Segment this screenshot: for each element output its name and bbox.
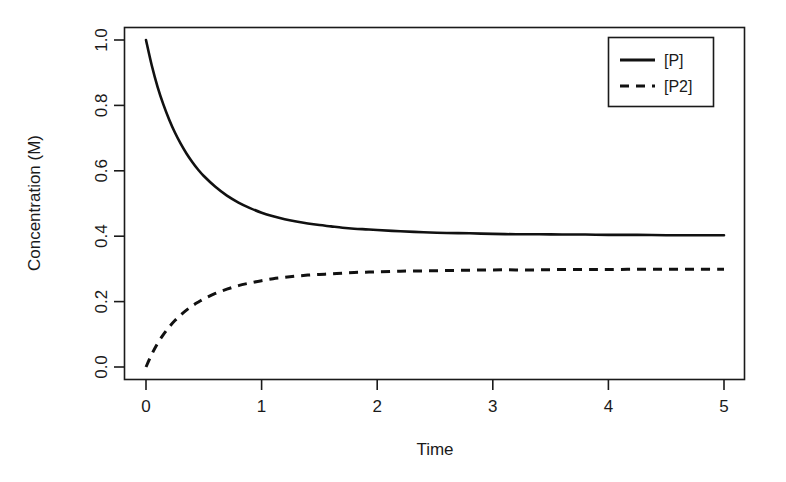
x-axis-label: Time — [416, 440, 453, 459]
plot-canvas: 1.0 0.8 0.6 0.4 0.2 0.0 0 1 2 3 4 5 Time — [0, 0, 786, 482]
y-tick-label: 0.6 — [92, 159, 111, 183]
x-tick-label: 4 — [604, 397, 613, 416]
y-axis-label: Concentration (M) — [25, 135, 44, 271]
x-tick-label: 0 — [141, 397, 150, 416]
y-tick-label: 1.0 — [92, 28, 111, 52]
x-tick-label: 5 — [719, 397, 728, 416]
x-tick-label: 3 — [488, 397, 497, 416]
legend-border — [609, 38, 714, 107]
x-tick-label: 2 — [372, 397, 381, 416]
y-tick-label: 0.2 — [92, 290, 111, 314]
legend-label-p2: [P2] — [664, 78, 692, 95]
x-tick-label: 1 — [257, 397, 266, 416]
legend: [P] [P2] — [609, 38, 714, 107]
y-tick-label: 0.8 — [92, 94, 111, 118]
y-tick-label: 0.4 — [92, 224, 111, 248]
chart-figure: 1.0 0.8 0.6 0.4 0.2 0.0 0 1 2 3 4 5 Time — [0, 0, 786, 482]
legend-label-p: [P] — [664, 52, 684, 69]
y-tick-label: 0.0 — [92, 355, 111, 379]
